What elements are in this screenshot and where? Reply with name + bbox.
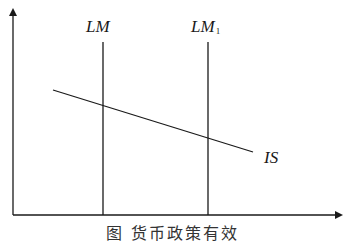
lm1-label-text: LM [191,17,215,36]
lm-label: LM [86,18,110,35]
lm1-label: LM1 [191,18,220,36]
is-label-text: IS [264,148,278,167]
lm-label-text: LM [86,17,110,36]
lm1-subscript: 1 [216,26,221,36]
is-curve [53,90,253,152]
figure-caption: 图 货币政策有效 [0,226,345,242]
is-label: IS [264,149,278,166]
